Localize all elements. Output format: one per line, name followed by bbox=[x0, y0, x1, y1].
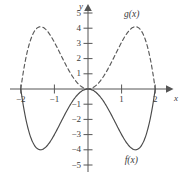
y-axis-arrowhead bbox=[84, 4, 92, 11]
function-graph-figure: −2−11254321−1−2−3−4−5 x y g(x) f(x) bbox=[0, 0, 181, 180]
x-tick-label-3: 2 bbox=[149, 95, 161, 104]
y-tick-label-2: 3 bbox=[67, 39, 81, 48]
x-tick-label-0: −2 bbox=[15, 95, 27, 104]
curve-label-g: g(x) bbox=[124, 10, 139, 20]
y-tick-label-1: 4 bbox=[67, 24, 81, 33]
y-tick-label-5: −1 bbox=[67, 100, 81, 109]
axes-group bbox=[10, 4, 174, 172]
curve-label-f: f(x) bbox=[125, 156, 138, 166]
y-tick-label-3: 2 bbox=[67, 54, 81, 63]
x-tick-label-1: −1 bbox=[48, 95, 60, 104]
y-axis-label: y bbox=[79, 2, 83, 11]
y-tick-label-4: 1 bbox=[67, 69, 81, 78]
x-axis-arrowhead bbox=[166, 85, 174, 93]
x-tick-label-2: 1 bbox=[116, 95, 128, 104]
y-tick-label-7: −3 bbox=[67, 130, 81, 139]
x-axis-label: x bbox=[174, 94, 178, 103]
y-tick-label-9: −5 bbox=[67, 161, 81, 170]
plot-canvas bbox=[0, 0, 181, 180]
y-tick-label-8: −4 bbox=[67, 145, 81, 154]
y-tick-label-6: −2 bbox=[67, 115, 81, 124]
